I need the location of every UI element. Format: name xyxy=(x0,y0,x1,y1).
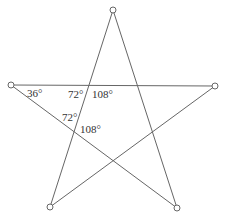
pentagram-svg: 36° 72° 108° 72° 108° xyxy=(0,0,227,217)
vertex-left xyxy=(8,82,14,88)
vertex-top xyxy=(110,7,116,13)
edge-top-bottomright xyxy=(113,10,177,208)
pentagram-diagram: 36° 72° 108° 72° 108° xyxy=(0,0,227,217)
vertex-bottom-right xyxy=(174,205,180,211)
angle-label-72-upper: 72° xyxy=(68,88,83,100)
vertex-bottom-left xyxy=(47,204,53,210)
angle-label-108-upper: 108° xyxy=(92,88,113,100)
angle-label-108-lower: 108° xyxy=(80,123,101,135)
vertex-right xyxy=(212,83,218,89)
edge-left-right xyxy=(11,85,215,86)
angle-label-72-lower: 72° xyxy=(62,111,77,123)
edge-left-bottomright xyxy=(11,85,177,208)
edge-right-bottomleft xyxy=(50,86,215,207)
angle-label-36: 36° xyxy=(27,87,42,99)
edge-top-bottomleft xyxy=(50,10,113,207)
